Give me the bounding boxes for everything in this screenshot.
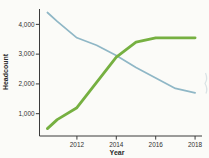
y-tick-label: 4,000 [19, 21, 35, 28]
green-rising-line [47, 38, 195, 129]
y-tick-label: 1,000 [19, 110, 35, 117]
x-axis-title: Year [110, 149, 125, 156]
headcount-figure: 1,0002,0003,0004,0002012201420162018 Hea… [0, 0, 209, 158]
headcount-line-chart: 1,0002,0003,0004,0002012201420162018 Hea… [0, 0, 209, 158]
y-tick-label: 3,000 [19, 50, 35, 57]
y-tick-label: 2,000 [19, 80, 35, 87]
x-tick-label: 2016 [149, 141, 164, 148]
x-tick-label: 2018 [188, 141, 203, 148]
x-tick-label: 2012 [70, 141, 85, 148]
scan-artifact [205, 73, 207, 94]
x-tick-label: 2014 [109, 141, 124, 148]
y-axis-title: Headcount [2, 53, 9, 90]
plot-area: 1,0002,0003,0004,0002012201420162018 [19, 9, 207, 148]
